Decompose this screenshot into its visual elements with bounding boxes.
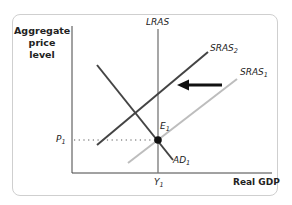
sras1-curve [128, 79, 237, 163]
ad1-label: AD1 [173, 155, 190, 167]
y1-tick-label: Y1 [154, 177, 164, 189]
y-axis-label-line-3: level [14, 49, 70, 61]
sras2-label: SRAS2 [210, 43, 238, 55]
lras-label: LRAS [146, 17, 169, 27]
ad1-curve [97, 65, 173, 160]
y-axis-label: Aggregate price level [14, 25, 70, 61]
y-axis-label-line-2: price [14, 37, 70, 49]
sras1-label: SRAS1 [240, 67, 268, 79]
e1-label: E1 [160, 121, 170, 133]
y-axis-label-line-1: Aggregate [14, 25, 70, 37]
equilibrium-point-e1 [154, 136, 162, 144]
shift-arrow-head [177, 80, 189, 91]
x-axis-label: Real GDP [233, 177, 280, 187]
sras2-curve [97, 52, 208, 145]
p1-tick-label: P1 [56, 134, 66, 146]
